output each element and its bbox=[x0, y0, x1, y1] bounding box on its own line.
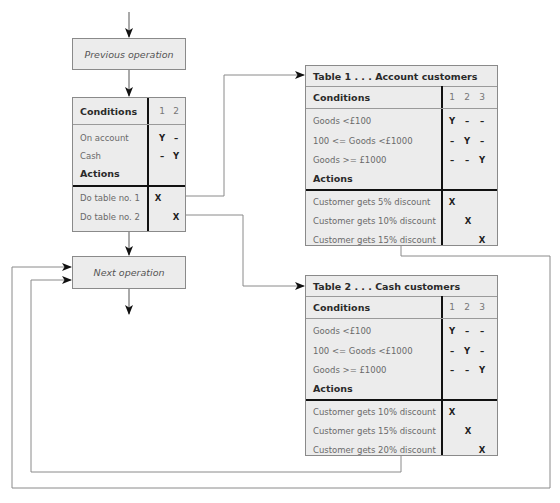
column-divider bbox=[147, 98, 149, 231]
action-label: Do table no. 2 bbox=[80, 212, 140, 222]
actions-divider bbox=[73, 185, 185, 187]
condition-value: – bbox=[171, 133, 181, 143]
rule-number: 1 bbox=[157, 106, 167, 116]
rule-number: 1 bbox=[447, 92, 457, 102]
actions-divider bbox=[306, 399, 497, 401]
table2-cash-customers: Table 2 . . . Cash customers Conditions … bbox=[305, 275, 498, 456]
rule-number: 2 bbox=[462, 92, 472, 102]
title-divider bbox=[306, 296, 497, 297]
conditions-header: Conditions bbox=[313, 92, 370, 103]
condition-value: Y bbox=[477, 155, 487, 165]
actions-header: Actions bbox=[313, 383, 353, 394]
condition-value: – bbox=[477, 116, 487, 126]
action-label: Customer gets 10% discount bbox=[313, 216, 436, 226]
header-divider bbox=[306, 108, 497, 109]
conditions-header: Conditions bbox=[80, 106, 137, 117]
table1-title: Table 1 . . . Account customers bbox=[313, 71, 477, 82]
column-divider bbox=[441, 296, 443, 455]
condition-value: – bbox=[462, 116, 472, 126]
condition-value: Y bbox=[477, 365, 487, 375]
condition-label: On account bbox=[80, 133, 129, 143]
condition-label: 100 <= Goods <£1000 bbox=[313, 136, 413, 146]
rule-number: 2 bbox=[171, 106, 181, 116]
condition-value: – bbox=[447, 136, 457, 146]
rule-number: 3 bbox=[477, 302, 487, 312]
table1-account-customers: Table 1 . . . Account customers Conditio… bbox=[305, 65, 498, 246]
condition-label: Goods >= £1000 bbox=[313, 155, 387, 165]
condition-label: Goods <£100 bbox=[313, 326, 371, 336]
action-label: Customer gets 5% discount bbox=[313, 197, 430, 207]
condition-value: – bbox=[462, 326, 472, 336]
condition-value: Y bbox=[157, 133, 167, 143]
condition-value: Y bbox=[462, 136, 472, 146]
title-divider bbox=[306, 86, 497, 87]
previous-operation-box: Previous operation bbox=[72, 38, 186, 70]
condition-value: – bbox=[462, 155, 472, 165]
action-value: X bbox=[153, 193, 163, 203]
action-label: Customer gets 20% discount bbox=[313, 445, 436, 455]
condition-value: – bbox=[462, 365, 472, 375]
action-value: X bbox=[447, 407, 457, 417]
condition-label: 100 <= Goods <£1000 bbox=[313, 346, 413, 356]
action-value: X bbox=[477, 235, 487, 245]
next-operation-box: Next operation bbox=[72, 256, 186, 289]
rule-number: 1 bbox=[447, 302, 457, 312]
conditions-header: Conditions bbox=[313, 302, 370, 313]
action-label: Customer gets 15% discount bbox=[313, 235, 436, 245]
condition-value: Y bbox=[447, 116, 457, 126]
condition-value: – bbox=[477, 326, 487, 336]
previous-operation-label: Previous operation bbox=[84, 49, 173, 60]
condition-value: – bbox=[447, 155, 457, 165]
table2-title: Table 2 . . . Cash customers bbox=[313, 281, 460, 292]
condition-value: Y bbox=[447, 326, 457, 336]
action-label: Customer gets 10% discount bbox=[313, 407, 436, 417]
actions-divider bbox=[306, 189, 497, 191]
action-value: X bbox=[171, 212, 181, 222]
condition-value: Y bbox=[171, 151, 181, 161]
condition-value: – bbox=[477, 346, 487, 356]
column-divider bbox=[441, 86, 443, 245]
action-label: Do table no. 1 bbox=[80, 193, 140, 203]
actions-header: Actions bbox=[313, 173, 353, 184]
condition-value: – bbox=[447, 365, 457, 375]
condition-value: Y bbox=[462, 346, 472, 356]
condition-value: – bbox=[477, 136, 487, 146]
header-divider bbox=[306, 318, 497, 319]
condition-label: Goods <£100 bbox=[313, 116, 371, 126]
actions-header: Actions bbox=[80, 168, 120, 179]
action-value: X bbox=[447, 197, 457, 207]
action-label: Customer gets 15% discount bbox=[313, 426, 436, 436]
condition-label: Goods >= £1000 bbox=[313, 365, 387, 375]
condition-value: – bbox=[447, 346, 457, 356]
condition-label: Cash bbox=[80, 151, 101, 161]
next-operation-label: Next operation bbox=[94, 267, 165, 278]
action-value: X bbox=[477, 445, 487, 455]
condition-value: – bbox=[157, 151, 167, 161]
header-divider bbox=[73, 124, 185, 125]
rule-number: 3 bbox=[477, 92, 487, 102]
action-value: X bbox=[463, 216, 473, 226]
main-decision-table: Conditions 1 2 On account Y – Cash – Y A… bbox=[72, 97, 186, 232]
rule-number: 2 bbox=[462, 302, 472, 312]
action-value: X bbox=[463, 426, 473, 436]
